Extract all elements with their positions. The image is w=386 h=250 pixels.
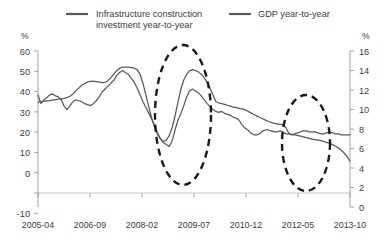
chart-container: Infrastructure construction investment y… bbox=[0, 0, 386, 250]
x-axis-labels: 2005-04 2006-09 2008-02 2009-07 2010-12 … bbox=[22, 220, 366, 230]
right-tick-6: 6 bbox=[359, 144, 364, 154]
legend-label-gdp: GDP year-to-year bbox=[258, 9, 330, 19]
left-tick-60: 60 bbox=[20, 47, 30, 57]
legend-label-infrastructure-line2: investment year-to-year bbox=[96, 20, 193, 30]
right-tick-12: 12 bbox=[359, 86, 369, 96]
chart-legend: Infrastructure construction investment y… bbox=[66, 9, 330, 30]
left-tick-40: 40 bbox=[20, 87, 30, 97]
left-tick-30: 30 bbox=[20, 108, 30, 118]
right-tick-0: 0 bbox=[359, 203, 364, 213]
left-axis-ticks: 60 50 40 30 20 10 0 -10 bbox=[17, 47, 38, 220]
x-axis-ticks bbox=[38, 193, 350, 197]
x-tick-label-1: 2006-09 bbox=[74, 220, 106, 230]
right-tick-4: 4 bbox=[359, 164, 364, 174]
right-tick-8: 8 bbox=[359, 125, 364, 135]
left-tick-20: 20 bbox=[20, 128, 30, 138]
legend-label-infrastructure-line1: Infrastructure construction bbox=[96, 9, 202, 19]
right-tick-16: 16 bbox=[359, 47, 369, 57]
x-tick-label-4: 2010-12 bbox=[230, 220, 262, 230]
series-line-gdp bbox=[38, 71, 350, 147]
highlight-ellipse-2013 bbox=[282, 95, 330, 191]
line-chart: Infrastructure construction investment y… bbox=[0, 0, 386, 250]
highlight-ellipse-2009 bbox=[155, 45, 211, 185]
x-tick-label-6: 2013-10 bbox=[334, 220, 366, 230]
right-axis-unit: % bbox=[362, 31, 370, 41]
left-tick-50: 50 bbox=[20, 67, 30, 77]
x-tick-label-3: 2009-07 bbox=[178, 220, 210, 230]
left-tick-10: 10 bbox=[20, 148, 30, 158]
left-tick-neg10: -10 bbox=[17, 209, 30, 219]
series-line-infrastructure bbox=[38, 67, 350, 161]
right-tick-10: 10 bbox=[359, 105, 369, 115]
left-tick-0: 0 bbox=[25, 169, 30, 179]
x-tick-label-2: 2008-02 bbox=[126, 220, 158, 230]
x-tick-label-5: 2012-05 bbox=[282, 220, 314, 230]
x-tick-label-0: 2005-04 bbox=[22, 220, 54, 230]
left-axis-unit: % bbox=[21, 31, 29, 41]
right-tick-14: 14 bbox=[359, 66, 369, 76]
right-axis-ticks: 16 14 12 10 8 6 4 2 0 bbox=[350, 47, 369, 213]
right-tick-2: 2 bbox=[359, 183, 364, 193]
